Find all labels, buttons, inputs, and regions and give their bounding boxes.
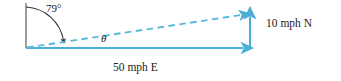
east-vector-label: 50 mph E bbox=[113, 62, 158, 74]
north-vector-label: 10 mph N bbox=[266, 18, 312, 30]
angle-label: 79° bbox=[46, 3, 61, 14]
theta-label: θ bbox=[101, 33, 106, 44]
vector-diagram: 79° θ 10 mph N 50 mph E bbox=[0, 0, 341, 81]
resultant-vector-arrow bbox=[27, 15, 241, 48]
